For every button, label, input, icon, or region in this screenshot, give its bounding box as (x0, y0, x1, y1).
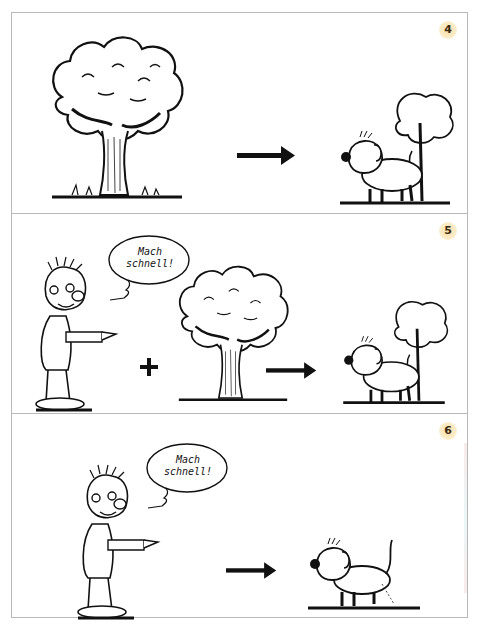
panel-5: 5 Mach schnell! (12, 213, 467, 413)
tree-illustration (42, 27, 192, 207)
dog-peeing-illustration (308, 536, 428, 614)
panel-number-badge: 4 (439, 21, 457, 39)
speech-bubble-text: Mach schnell! (158, 454, 218, 478)
arrow-right-icon (226, 560, 278, 580)
panel-6: 6 Mach schnell! (12, 413, 467, 618)
page-edge-tint (464, 443, 467, 593)
tree-illustration (168, 258, 298, 408)
speech-line-1: Mach (158, 454, 218, 466)
speech-line-2: schnell! (158, 466, 218, 478)
arrow-right-icon (237, 145, 297, 165)
panel-4: 4 (12, 13, 467, 213)
panel-number-badge: 6 (439, 422, 457, 440)
comic-frame: 4 5 (11, 12, 468, 618)
dog-at-tree-illustration (334, 290, 454, 410)
dog-at-tree-illustration (330, 81, 460, 211)
plus-icon (140, 358, 158, 376)
panel-number-badge: 5 (439, 222, 457, 240)
speech-line-1: Mach (120, 246, 180, 258)
arrow-right-icon (266, 360, 318, 380)
